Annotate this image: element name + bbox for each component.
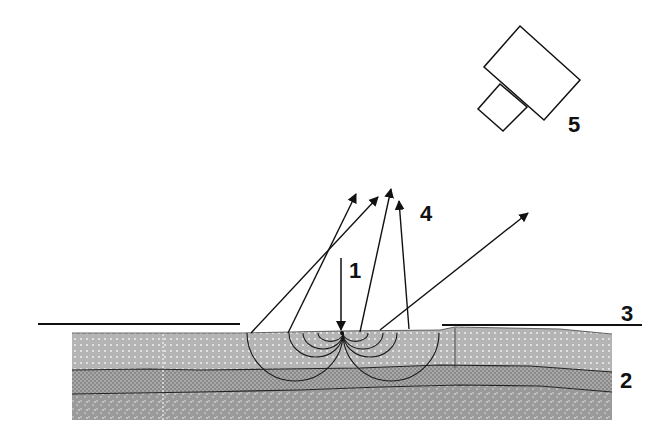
emitted-rays xyxy=(251,189,528,333)
label-5: 5 xyxy=(568,114,580,136)
label-2: 2 xyxy=(620,370,632,392)
label-4: 4 xyxy=(420,203,432,225)
detector-icon xyxy=(478,26,580,131)
label-3: 3 xyxy=(621,303,633,325)
label-1: 1 xyxy=(349,260,361,282)
diagram-canvas xyxy=(0,0,667,438)
